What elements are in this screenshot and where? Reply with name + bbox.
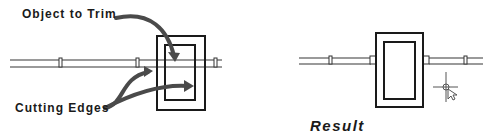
cutting-edges-label: Cutting Edges — [15, 101, 109, 115]
crosshair-cursor-icon — [433, 72, 458, 102]
pipe-after — [299, 58, 483, 64]
pipe-before — [10, 60, 222, 67]
trimmed-rects — [376, 33, 423, 107]
result-label: Result — [310, 117, 365, 134]
callout-arrows — [105, 16, 188, 108]
cutting-edge-rects — [157, 36, 205, 110]
object-to-trim-label: Object to Trim — [22, 7, 117, 21]
